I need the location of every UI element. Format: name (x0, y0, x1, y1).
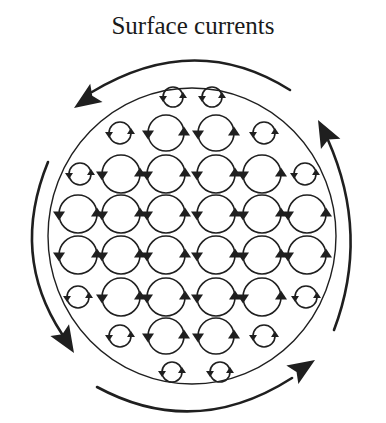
gyre-cell (249, 122, 279, 144)
surface-current-bottom (97, 351, 321, 412)
gyre-cells (53, 87, 332, 382)
gyre-cell (237, 278, 287, 316)
arrow-down-icon (105, 335, 113, 341)
gyre-cell (141, 278, 191, 316)
gyre-cell (158, 362, 186, 382)
arrow-up-icon (179, 168, 191, 177)
gyre-cell (290, 163, 320, 185)
arrow-down-icon (142, 131, 154, 140)
gyre-cell (237, 195, 287, 233)
gyre-cell (291, 286, 321, 308)
arrow-up-icon (178, 367, 186, 373)
arrow-down-icon (198, 96, 206, 102)
surface-current-left (32, 162, 83, 359)
arrow-down-icon (158, 371, 166, 377)
gyre-cell (105, 122, 135, 144)
gyre-cell (96, 195, 146, 233)
arrow-down-icon (192, 334, 204, 343)
arrow-up-icon (127, 331, 135, 337)
arrow-up-icon (179, 208, 191, 217)
arrow-up-icon (271, 128, 279, 134)
arrow-down-icon (249, 132, 257, 138)
arrow-up-icon (179, 291, 191, 300)
arrow-down-icon (96, 172, 108, 181)
arrow-down-icon (65, 173, 73, 179)
arrow-up-icon (320, 208, 332, 217)
arrow-down-icon (191, 253, 203, 262)
gyre-cell (65, 163, 95, 185)
gyre-cell (141, 155, 191, 193)
current-arc (97, 378, 292, 411)
gyre-cell (191, 155, 241, 193)
arrowhead-icon (50, 324, 83, 359)
arrow-up-icon (179, 249, 191, 258)
arrow-down-icon (96, 295, 108, 304)
gyre-cell (105, 325, 135, 347)
arrow-up-icon (178, 127, 190, 136)
gyre-cell (192, 115, 240, 151)
arrow-up-icon (85, 292, 93, 298)
arrow-down-icon (53, 253, 65, 262)
arrow-down-icon (105, 132, 113, 138)
arrow-up-icon (226, 367, 234, 373)
gyre-cell (142, 115, 190, 151)
arrow-up-icon (178, 330, 190, 339)
arrow-down-icon (159, 96, 167, 102)
gyre-cell (96, 155, 146, 193)
arrow-up-icon (87, 169, 95, 175)
gyre-cell (237, 236, 287, 274)
gyre-cell (159, 87, 187, 107)
arrowhead-icon (308, 115, 340, 149)
gyre-cell (141, 195, 191, 233)
gyre-cell (282, 236, 332, 274)
arrow-up-icon (313, 292, 321, 298)
arrow-up-icon (271, 331, 279, 337)
arrow-up-icon (228, 330, 240, 339)
arrow-down-icon (191, 212, 203, 221)
arrow-down-icon (191, 172, 203, 181)
arrow-down-icon (53, 212, 65, 221)
gyre-cell (142, 318, 190, 354)
gyre-cell (53, 236, 103, 274)
gyre-cell (191, 195, 241, 233)
arrow-down-icon (192, 131, 204, 140)
gyre-cell (191, 278, 241, 316)
current-arc (32, 162, 62, 334)
arrow-up-icon (275, 291, 287, 300)
arrow-down-icon (206, 371, 214, 377)
current-arc (92, 60, 290, 92)
arrow-up-icon (179, 92, 187, 98)
arrow-up-icon (275, 168, 287, 177)
ocean-basin-outline (48, 88, 336, 384)
arrow-up-icon (127, 128, 135, 134)
gyre-cell (53, 195, 103, 233)
arrow-up-icon (312, 169, 320, 175)
arrow-down-icon (63, 296, 71, 302)
arrow-down-icon (191, 295, 203, 304)
gyre-cell (141, 236, 191, 274)
gyre-cell (237, 155, 287, 193)
gyre-cell (282, 195, 332, 233)
arrow-up-icon (228, 127, 240, 136)
arrow-down-icon (291, 296, 299, 302)
gyre-cell (191, 236, 241, 274)
arrow-up-icon (320, 249, 332, 258)
gyre-cell (96, 278, 146, 316)
current-arc (328, 140, 351, 330)
gyre-cell (192, 318, 240, 354)
arrow-up-icon (218, 92, 226, 98)
gyre-cell (63, 286, 93, 308)
gyre-cell (96, 236, 146, 274)
gyre-cell (249, 325, 279, 347)
arrow-down-icon (142, 334, 154, 343)
arrow-down-icon (249, 335, 257, 341)
ocean-gyre-diagram (0, 0, 386, 423)
arrow-down-icon (290, 173, 298, 179)
